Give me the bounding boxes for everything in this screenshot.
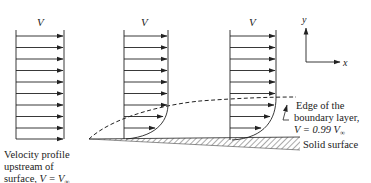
profile-1-label: V: [37, 16, 45, 28]
upstream-label-line1: Velocity profile: [4, 149, 70, 160]
upstream-label-line3: surface, V = V∞: [4, 173, 70, 183]
profile-2-label: V: [141, 16, 149, 28]
solid-surface-label: Solid surface: [303, 139, 358, 150]
edge-label-line1: Edge of the: [296, 100, 345, 111]
edge-label-line3: V = 0.99 V∞: [294, 124, 345, 137]
y-axis-label: y: [301, 14, 307, 25]
x-axis-label: x: [342, 57, 348, 68]
diagram-labels: V V V y x Velocity profile upstream of s…: [0, 0, 371, 183]
upstream-label-line2: upstream of: [4, 161, 54, 172]
profile-3-label: V: [249, 16, 257, 28]
edge-label-line2: boundary layer,: [294, 112, 359, 123]
